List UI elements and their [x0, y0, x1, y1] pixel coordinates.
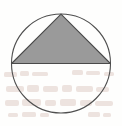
- figure-container: Circle with inscribed shaded triangle A …: [0, 0, 122, 126]
- geometry-diagram: [0, 0, 122, 126]
- inscribed-triangle: [12, 14, 111, 63]
